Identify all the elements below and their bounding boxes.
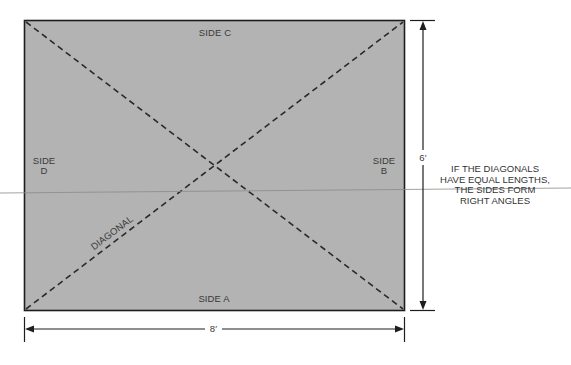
dimension-width-label: 8′ bbox=[205, 324, 222, 334]
label-side-a: SIDE A bbox=[189, 294, 239, 304]
note-line-4: RIGHT ANGLES bbox=[435, 196, 555, 207]
dimension-height-label: 6′ bbox=[415, 153, 431, 163]
arrow-up-icon bbox=[420, 21, 427, 30]
label-side-b: SIDE B bbox=[370, 156, 398, 176]
arrow-left-icon bbox=[25, 326, 34, 333]
arrow-down-icon bbox=[420, 301, 427, 310]
arrow-right-icon bbox=[395, 326, 404, 333]
note-line-3: THE SIDES FORM bbox=[435, 185, 555, 196]
label-side-d: SIDE D bbox=[30, 156, 58, 176]
note-line-1: IF THE DIAGONALS bbox=[435, 164, 555, 175]
label-side-b-line2: B bbox=[370, 166, 398, 176]
label-side-c: SIDE C bbox=[190, 28, 240, 38]
label-side-d-line2: D bbox=[30, 166, 58, 176]
note-text: IF THE DIAGONALS HAVE EQUAL LENGTHS, THE… bbox=[435, 164, 555, 206]
